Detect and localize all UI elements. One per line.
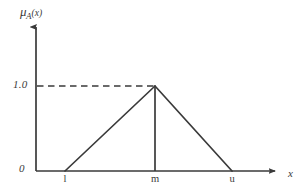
membership-function-figure: μA(x) 1.0 0 l m u x <box>0 0 307 193</box>
x-axis-title: x <box>288 168 293 179</box>
y-tick-label-one: 1.0 <box>13 79 27 90</box>
mu-argument: (x) <box>32 8 43 18</box>
x-tick-label-lower-bound: l <box>64 174 67 185</box>
x-tick-label-modal-value: m <box>151 174 159 185</box>
rising-edge-line <box>65 86 155 171</box>
falling-edge-line <box>155 86 232 171</box>
origin-label-zero: 0 <box>19 163 25 174</box>
x-tick-label-upper-bound: u <box>229 174 234 185</box>
y-axis-title: μA(x) <box>20 5 42 21</box>
plot-canvas <box>0 0 307 193</box>
